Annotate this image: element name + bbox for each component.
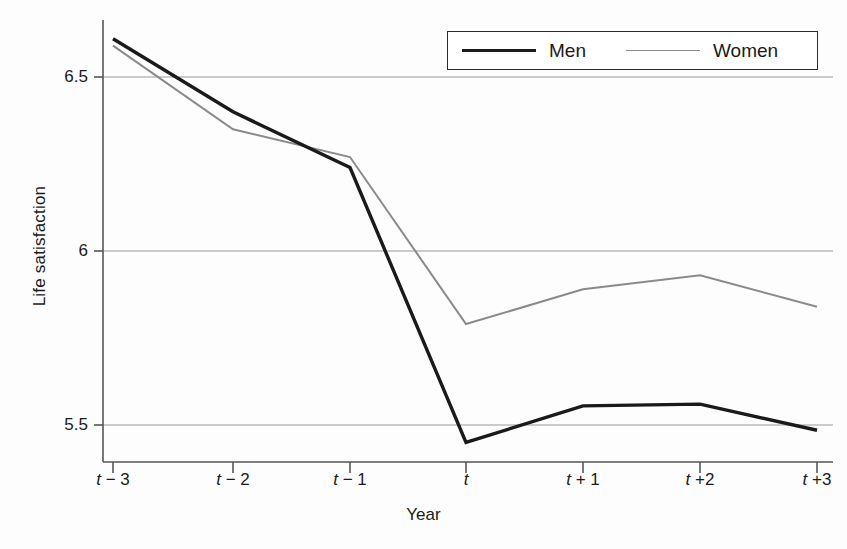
y-tick-label-6.5: 6.5 <box>36 67 88 87</box>
gridlines-group <box>103 77 833 425</box>
series-line-women <box>113 46 817 324</box>
x-tick-label-3: t <box>421 470 511 490</box>
legend-item-men: Men <box>462 32 586 69</box>
x-tick-label-5: t +2 <box>655 470 745 490</box>
x-axis-title: Year <box>0 505 847 525</box>
legend-line-men-icon <box>462 49 536 52</box>
life-satisfaction-line-chart: 6.565.5 t − 3t − 2t − 1tt + 1t +2t +3 Li… <box>0 0 847 549</box>
x-tick-label-1: t − 2 <box>188 470 278 490</box>
x-tick-label-0: t − 3 <box>68 470 158 490</box>
legend-label-women: Women <box>713 40 778 62</box>
y-axis-title: Life satisfaction <box>30 146 50 346</box>
x-tick-label-6: t +3 <box>772 470 847 490</box>
series-lines-group <box>113 39 817 443</box>
plot-area <box>0 0 847 549</box>
chart-legend: Men Women <box>447 31 818 70</box>
axis-lines-group <box>103 20 833 462</box>
y-tick-label-5.5: 5.5 <box>36 415 88 435</box>
legend-line-women-icon <box>626 50 700 51</box>
legend-label-men: Men <box>549 40 586 62</box>
x-tick-label-4: t + 1 <box>538 470 628 490</box>
x-tick-label-2: t − 1 <box>305 470 395 490</box>
series-line-men <box>113 39 817 443</box>
legend-item-women: Women <box>626 32 778 69</box>
